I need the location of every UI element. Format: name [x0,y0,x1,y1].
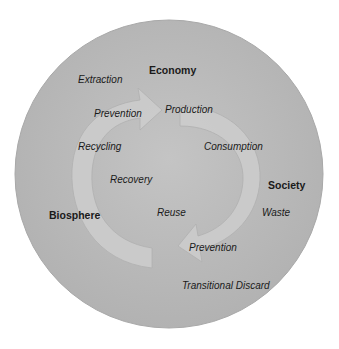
label-economy: Economy [149,64,196,76]
label-recycling: Recycling [78,141,121,152]
label-prevention-bottom: Prevention [189,242,237,253]
label-recovery: Recovery [110,174,152,185]
label-society: Society [268,179,305,191]
diagram-graphic [0,0,339,349]
label-extraction: Extraction [78,74,122,85]
label-production: Production [165,104,213,115]
label-reuse: Reuse [157,207,186,218]
label-consumption: Consumption [204,141,263,152]
label-waste: Waste [262,207,290,218]
label-transitional-discard: Transitional Discard [182,280,270,291]
label-prevention-top: Prevention [94,108,142,119]
label-biosphere: Biosphere [49,209,100,221]
circular-economy-diagram: Economy Extraction Prevention Production… [0,0,339,349]
